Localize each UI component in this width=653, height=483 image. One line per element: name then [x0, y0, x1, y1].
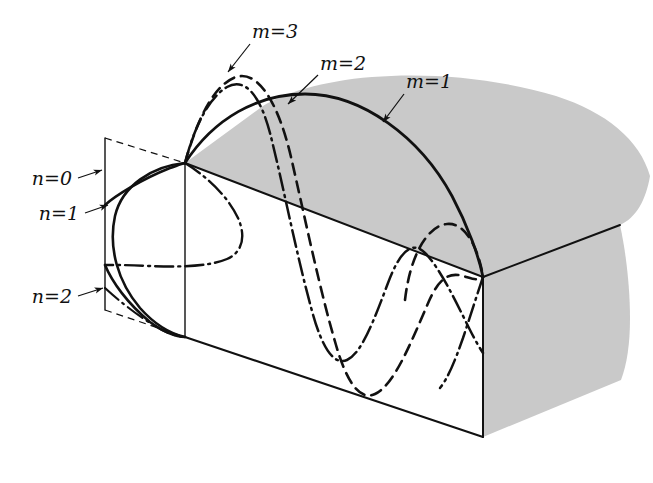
label-n1: n=1 — [39, 202, 79, 224]
label-m3: m=3 — [252, 20, 298, 42]
transverse-mode-curves — [105, 163, 242, 337]
label-m1: m=1 — [406, 70, 452, 92]
waveguide-shaded-region — [185, 75, 650, 437]
leader-n2 — [78, 288, 103, 296]
edge-hidden-top-diagonal — [105, 138, 185, 163]
label-n2: n=2 — [32, 285, 72, 307]
edge-bottom-front — [185, 337, 483, 437]
figure-canvas: m=3 m=2 m=1 n=0 n=1 n=2 — [0, 0, 653, 483]
curve-m3-tail — [440, 277, 483, 388]
label-n0: n=0 — [32, 167, 72, 189]
curve-n1 — [105, 163, 185, 205]
waveguide-mode-figure: m=3 m=2 m=1 n=0 n=1 n=2 — [0, 0, 653, 483]
curve-n0 — [113, 163, 185, 337]
leader-n0 — [78, 170, 102, 178]
leader-m3 — [228, 44, 250, 72]
curve-n1-lower — [105, 265, 185, 337]
curve-n2 — [105, 163, 242, 266]
label-m2: m=2 — [320, 52, 366, 74]
